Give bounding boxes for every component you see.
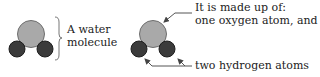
- right-water-molecule: [131, 21, 175, 58]
- curly-brace-icon: [55, 17, 62, 60]
- hydrogen-pointer-arrow-icon: [178, 59, 185, 66]
- water-molecule-label: A water molecule: [67, 23, 117, 49]
- composition-label: It is made up of: one oxygen atom, and: [195, 1, 318, 27]
- label-line: A water: [67, 23, 117, 36]
- water-molecule-diagram: A water molecule It is made up of: one o…: [0, 0, 320, 77]
- label-line: one oxygen atom, and: [195, 14, 318, 27]
- hydrogen-atom-icon: [131, 41, 147, 57]
- oxygen-pointer-arrow-icon: [164, 13, 192, 22]
- hydrogen-atom-icon: [159, 41, 175, 57]
- label-line: It is made up of:: [195, 1, 318, 14]
- hydrogen-atom-icon: [9, 41, 25, 57]
- hydrogen-label: two hydrogen atoms: [195, 59, 309, 72]
- left-water-molecule: [9, 21, 53, 58]
- hydrogen-atom-icon: [37, 41, 53, 57]
- label-line: molecule: [67, 36, 117, 49]
- hydrogen-pointer-arrow-icon: [145, 59, 192, 66]
